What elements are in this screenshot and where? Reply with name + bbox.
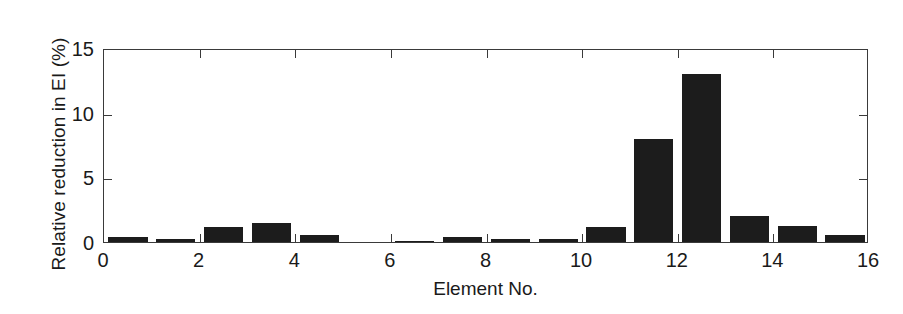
x-axis-tick-label: 4 (272, 249, 316, 271)
x-axis-tick (773, 234, 774, 242)
bar (204, 227, 243, 242)
x-axis-tick-label: 8 (464, 249, 508, 271)
x-axis-tick (678, 50, 679, 58)
x-axis-tick-label: 10 (559, 249, 603, 271)
y-axis-tick-labels: 051015 (48, 49, 94, 243)
bar (825, 235, 864, 242)
x-axis-tick-label: 2 (177, 249, 221, 271)
x-axis-tick (391, 234, 392, 242)
bar (108, 237, 147, 242)
bar (539, 239, 578, 242)
y-axis-tick (104, 115, 112, 116)
x-axis-tick (582, 50, 583, 58)
x-axis-tick-label: 6 (368, 249, 412, 271)
y-axis-tick-label: 10 (54, 104, 94, 124)
bar (300, 235, 339, 242)
y-axis-tick (859, 115, 867, 116)
plot-frame (103, 49, 868, 243)
x-axis-tick (200, 234, 201, 242)
chart-figure: Relative reduction in EI (%) 051015 0246… (0, 0, 903, 314)
y-axis-tick (859, 179, 867, 180)
x-axis-tick (391, 50, 392, 58)
x-axis-title: Element No. (103, 278, 868, 300)
bar (491, 239, 530, 242)
x-axis-tick (295, 50, 296, 58)
y-axis-tick-label: 5 (54, 168, 94, 188)
y-axis-title-wrapper: Relative reduction in EI (%) (8, 14, 42, 294)
x-axis-tick (582, 234, 583, 242)
bar (586, 227, 625, 242)
bar (156, 239, 195, 242)
y-axis-tick-label: 15 (54, 39, 94, 59)
bar (778, 226, 817, 242)
x-axis-tick-label: 0 (81, 249, 125, 271)
bar (252, 223, 291, 242)
x-axis-tick (487, 50, 488, 58)
bar (634, 139, 673, 242)
x-axis-tick (295, 234, 296, 242)
bar (443, 237, 482, 242)
x-axis-tick (773, 50, 774, 58)
x-axis-tick-labels: 0246810121416 (103, 249, 868, 275)
x-axis-tick (678, 234, 679, 242)
x-axis-tick-label: 14 (750, 249, 794, 271)
x-axis-tick-label: 16 (846, 249, 890, 271)
y-axis-tick (104, 179, 112, 180)
bar (395, 241, 434, 242)
x-axis-tick (200, 50, 201, 58)
x-axis-tick (487, 234, 488, 242)
bar (682, 74, 721, 242)
x-axis-tick-label: 12 (655, 249, 699, 271)
plot-area (104, 50, 867, 242)
bar (730, 216, 769, 243)
